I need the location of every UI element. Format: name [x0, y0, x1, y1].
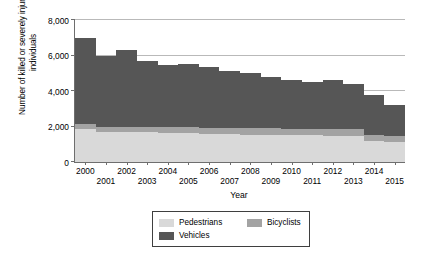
bar-2002	[116, 20, 137, 162]
x-tick-label-2012: 2012	[323, 166, 342, 176]
x-tick-label-2007: 2007	[220, 176, 239, 186]
y-tick-label: 8,000	[48, 16, 69, 26]
bar-2003	[137, 20, 158, 162]
legend-row: Pedestrians Bicyclists	[159, 216, 303, 229]
bar-2000	[75, 20, 96, 162]
y-tick-label: 6,000	[48, 51, 69, 61]
bar-segment-vehicles	[137, 61, 158, 127]
bar-2008	[240, 20, 261, 162]
x-tick-mark	[271, 162, 272, 165]
x-tick-mark	[250, 162, 251, 165]
x-tick-mark	[353, 162, 354, 165]
x-tick-label-2000: 2000	[76, 166, 95, 176]
bar-segment-bicyclists	[364, 135, 385, 141]
bar-2011	[302, 20, 323, 162]
bar-segment-vehicles	[302, 82, 323, 129]
legend-item-vehicles: Vehicles	[159, 231, 247, 240]
bar-2001	[96, 20, 117, 162]
x-tick-mark	[147, 162, 148, 165]
bar-2013	[343, 20, 364, 162]
x-axis-title: Year	[74, 190, 404, 200]
x-tick-mark	[106, 162, 107, 165]
bar-segment-vehicles	[281, 80, 302, 129]
bar-segment-pedestrians	[384, 142, 405, 162]
x-tick-label-2001: 2001	[97, 176, 116, 186]
chart-legend: Pedestrians Bicyclists Vehicles	[152, 211, 310, 247]
bar-segment-pedestrians	[240, 135, 261, 163]
bar-segment-bicyclists	[384, 136, 405, 141]
bar-2004	[158, 20, 179, 162]
x-tick-label-2009: 2009	[262, 176, 281, 186]
bar-segment-vehicles	[240, 73, 261, 128]
x-tick-mark	[127, 162, 128, 165]
x-tick-mark	[312, 162, 313, 165]
bar-segment-bicyclists	[302, 129, 323, 135]
legend-swatch-vehicles	[159, 232, 174, 240]
bar-segment-pedestrians	[281, 135, 302, 162]
bar-segment-vehicles	[384, 105, 405, 136]
x-tick-label-2015: 2015	[385, 176, 404, 186]
x-tick-label-2004: 2004	[158, 166, 177, 176]
bar-segment-pedestrians	[178, 133, 199, 162]
bar-segment-bicyclists	[137, 127, 158, 132]
bar-segment-pedestrians	[302, 135, 323, 162]
bar-segment-bicyclists	[199, 128, 220, 133]
bar-segment-pedestrians	[323, 136, 344, 162]
bar-segment-bicyclists	[240, 128, 261, 134]
y-tick-label: 0	[64, 158, 69, 168]
bar-2010	[281, 20, 302, 162]
bar-segment-vehicles	[96, 56, 117, 127]
bar-segment-vehicles	[323, 80, 344, 129]
bar-2009	[261, 20, 282, 162]
bar-segment-bicyclists	[343, 129, 364, 136]
x-tick-label-2005: 2005	[179, 176, 198, 186]
bar-segment-pedestrians	[261, 135, 282, 163]
legend-label-bicyclists: Bicyclists	[267, 218, 301, 227]
bar-segment-pedestrians	[137, 132, 158, 162]
x-tick-mark	[333, 162, 334, 165]
x-tick-mark	[395, 162, 396, 165]
bar-segment-vehicles	[75, 38, 96, 124]
legend-row: Vehicles	[159, 229, 303, 242]
bar-segment-bicyclists	[178, 127, 199, 132]
bar-segment-pedestrians	[96, 132, 117, 162]
bar-segment-bicyclists	[261, 128, 282, 134]
x-tick-label-2010: 2010	[282, 166, 301, 176]
bar-segment-bicyclists	[158, 127, 179, 132]
bar-segment-vehicles	[219, 71, 240, 129]
bar-segment-vehicles	[178, 64, 199, 127]
bar-segment-pedestrians	[219, 134, 240, 162]
bar-2015	[384, 20, 405, 162]
bar-segment-bicyclists	[323, 129, 344, 136]
bar-segment-vehicles	[199, 67, 220, 128]
x-tick-label-2008: 2008	[241, 166, 260, 176]
x-tick-label-2011: 2011	[303, 176, 321, 186]
legend-label-vehicles: Vehicles	[179, 231, 210, 240]
bar-segment-bicyclists	[116, 127, 137, 132]
bar-2006	[199, 20, 220, 162]
bar-segment-pedestrians	[75, 129, 96, 162]
y-tick-label: 4,000	[48, 87, 69, 97]
chart-figure: Number of killed or severely injured ind…	[0, 0, 429, 263]
bar-segment-pedestrians	[116, 132, 137, 162]
bar-segment-pedestrians	[199, 134, 220, 162]
plot-area: 02,0004,0006,0008,000 200020012002200320…	[74, 20, 405, 163]
x-tick-label-2002: 2002	[117, 166, 136, 176]
bar-segment-pedestrians	[343, 136, 364, 162]
bar-2007	[219, 20, 240, 162]
x-tick-label-2013: 2013	[344, 176, 363, 186]
bar-2012	[323, 20, 344, 162]
y-axis-title: Number of killed or severely injured ind…	[18, 0, 39, 133]
bar-segment-vehicles	[116, 50, 137, 126]
bar-segment-vehicles	[364, 95, 385, 135]
legend-swatch-pedestrians	[159, 219, 174, 227]
bar-segment-bicyclists	[75, 124, 96, 129]
bar-segment-bicyclists	[281, 129, 302, 135]
bar-segment-pedestrians	[158, 133, 179, 162]
legend-swatch-bicyclists	[247, 219, 262, 227]
x-tick-label-2014: 2014	[365, 166, 384, 176]
bar-segment-pedestrians	[364, 141, 385, 162]
x-tick-label-2006: 2006	[200, 166, 219, 176]
x-tick-mark	[85, 162, 86, 165]
x-tick-label-2003: 2003	[138, 176, 157, 186]
